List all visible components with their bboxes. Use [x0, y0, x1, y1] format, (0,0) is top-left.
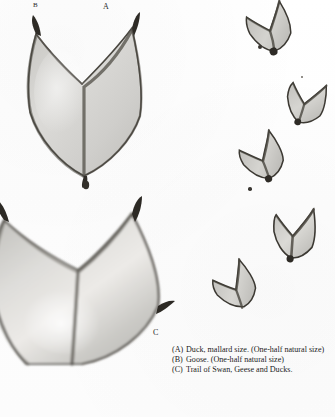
illustration-plate: A B C (A) Duck, mallard size. (One-half …: [0, 0, 335, 417]
trail-speck-2: [301, 76, 303, 78]
caption-tag-a: (A): [172, 345, 183, 355]
trail-print-svg: [266, 203, 320, 260]
membrane-highlight: [34, 46, 98, 138]
figure-label-c: C: [153, 329, 159, 337]
caption-text-a: Duck, mallard size. (One-half natural si…: [186, 345, 332, 355]
membrane-highlight: [20, 274, 112, 354]
trail-print-svg: [278, 73, 332, 128]
figure-label-a: A: [103, 3, 109, 11]
trail-print-svg: [237, 0, 299, 60]
claw-outer-left-icon: [32, 15, 41, 36]
trail-speck-1: [258, 45, 262, 49]
trail-speck-3: [248, 187, 252, 191]
caption-tag-c: (C): [172, 365, 183, 375]
goose-track-svg: [0, 196, 176, 364]
trail-print-4: [266, 203, 320, 260]
caption-line-c: (C) Trail of Swan, Geese and Ducks.: [172, 365, 332, 375]
web-membrane: [243, 0, 296, 56]
trail-print-2: [278, 73, 332, 128]
caption-text-b: Goose. (One-half natural size): [186, 355, 332, 365]
goose-track-figure: [0, 196, 176, 364]
caption-line-b: (B) Goose. (One-half natural size): [172, 355, 332, 365]
trail-print-svg: [230, 126, 292, 189]
caption-text-c: Trail of Swan, Geese and Ducks.: [186, 365, 332, 375]
duck-track-figure: [14, 12, 150, 188]
claw-outer-right-icon: [132, 12, 140, 36]
caption-line-a: (A) Duck, mallard size. (One-half natura…: [172, 345, 332, 355]
plate-caption: (A) Duck, mallard size. (One-half natura…: [172, 345, 332, 375]
web-membrane: [207, 258, 262, 315]
trail-print-5: [203, 254, 264, 317]
caption-tag-b: (B): [172, 355, 183, 365]
web-membrane: [282, 77, 329, 127]
hind-toe-dot: [83, 181, 89, 189]
trail-print-svg: [203, 254, 264, 317]
trail-print-1: [237, 0, 299, 60]
web-membrane: [235, 129, 290, 186]
claw-outer-left-icon: [0, 200, 9, 222]
figure-label-b: B: [33, 2, 38, 9]
trail-print-3: [230, 126, 292, 189]
duck-track-svg: [14, 12, 150, 188]
